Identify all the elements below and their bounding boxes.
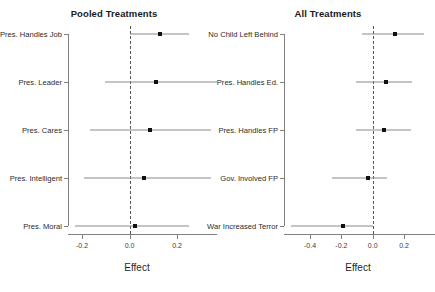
- x-axis-tick: [310, 235, 311, 239]
- x-axis-tick-label: 0.2: [399, 242, 409, 249]
- x-axis-tick: [130, 235, 131, 239]
- panel-pooled-treatments: Pooled Treatments -0.20.00.2Pres. Handle…: [0, 0, 217, 292]
- x-axis-tick: [177, 235, 178, 239]
- estimate-point: [382, 128, 386, 132]
- y-axis-tick: [280, 226, 284, 227]
- y-axis-tick: [64, 34, 68, 35]
- x-axis-tick: [341, 235, 342, 239]
- y-axis-category-label: Pres. Cares: [22, 126, 62, 135]
- x-axis-tick: [373, 235, 374, 239]
- x-axis-tick-label: -0.4: [304, 242, 316, 249]
- confidence-interval-bar: [332, 178, 387, 179]
- x-axis-tick-label: 0.0: [368, 242, 378, 249]
- y-axis-spine: [68, 34, 69, 226]
- confidence-interval-bar: [84, 178, 211, 179]
- x-axis-spine: [284, 234, 435, 235]
- y-axis-category-label: War Increased Terror: [207, 222, 278, 231]
- x-axis-spine: [68, 234, 217, 235]
- y-axis-category-label: Pres. Leader: [19, 78, 62, 87]
- x-axis-tick-label: 0.0: [125, 242, 135, 249]
- estimate-point: [142, 176, 146, 180]
- y-axis-category-label: Pres. Handles FP: [218, 126, 278, 135]
- y-axis-category-label: Gov. Involved FP: [220, 174, 278, 183]
- confidence-interval-bar: [291, 226, 372, 227]
- estimate-point: [154, 80, 158, 84]
- y-axis-category-label: Pres. Handles Job: [0, 30, 62, 39]
- y-axis-tick: [280, 178, 284, 179]
- y-axis-tick: [64, 178, 68, 179]
- y-axis-tick: [280, 34, 284, 35]
- x-axis-tick: [82, 235, 83, 239]
- coefficient-plot-figure: Pooled Treatments -0.20.00.2Pres. Handle…: [0, 0, 435, 292]
- x-axis-tick-label: -0.2: [335, 242, 347, 249]
- x-axis-title-all: Effect: [345, 262, 370, 273]
- y-axis-tick: [280, 130, 284, 131]
- panel-all-treatments: All Treatments -0.4-0.20.00.2No Child Le…: [218, 0, 435, 292]
- estimate-point: [341, 224, 345, 228]
- estimate-point: [158, 32, 162, 36]
- confidence-interval-bar: [75, 226, 189, 227]
- y-axis-category-label: Pres. Moral: [23, 222, 62, 231]
- y-axis-tick: [64, 82, 68, 83]
- estimate-point: [133, 224, 137, 228]
- y-axis-category-label: Pres. Handles Ed.: [217, 78, 278, 87]
- y-axis-category-label: Pres. Intelligent: [10, 174, 62, 183]
- y-axis-category-label: No Child Left Behind: [208, 30, 278, 39]
- x-axis-tick-label: -0.2: [76, 242, 88, 249]
- plot-area-pooled: -0.20.00.2Pres. Handles JobPres. LeaderP…: [0, 18, 217, 234]
- confidence-interval-bar: [105, 82, 217, 83]
- estimate-point: [148, 128, 152, 132]
- x-axis-title-pooled: Effect: [124, 262, 149, 273]
- x-axis-tick: [404, 235, 405, 239]
- estimate-point: [384, 80, 388, 84]
- x-axis-tick-label: 0.2: [172, 242, 182, 249]
- estimate-point: [366, 176, 370, 180]
- y-axis-tick: [64, 130, 68, 131]
- y-axis-spine: [284, 34, 285, 226]
- plot-area-all: -0.4-0.20.00.2No Child Left BehindPres. …: [218, 18, 435, 234]
- y-axis-tick: [280, 82, 284, 83]
- y-axis-tick: [64, 226, 68, 227]
- estimate-point: [393, 32, 397, 36]
